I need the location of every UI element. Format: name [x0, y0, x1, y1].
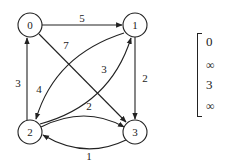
svg-text:5: 5 — [79, 12, 85, 24]
edge-3-2: 1 — [43, 135, 126, 162]
svg-text:3: 3 — [132, 126, 138, 138]
edge-0-1: 5 — [42, 12, 122, 25]
matrix-cell-r1c0: ∞ — [206, 58, 215, 72]
svg-text:2: 2 — [86, 100, 92, 112]
matrix-cell-r2c0: 3 — [206, 78, 213, 92]
svg-text:2: 2 — [142, 72, 148, 84]
node-0: 0 — [18, 13, 42, 37]
edge-2-0: 3 — [15, 38, 27, 120]
matrix-left-bracket — [197, 33, 202, 117]
svg-text:7: 7 — [63, 39, 69, 51]
svg-text:3: 3 — [15, 77, 21, 89]
adjacency-matrix: 0 ∞ 3 ∞ — [197, 33, 231, 117]
edge-2-3: 2 — [41, 100, 124, 127]
node-3: 3 — [123, 120, 147, 144]
node-2: 2 — [18, 120, 42, 144]
svg-text:0: 0 — [27, 19, 33, 31]
svg-text:4: 4 — [36, 83, 42, 95]
matrix-cell-r3c0: ∞ — [206, 99, 215, 113]
svg-text:3: 3 — [101, 63, 107, 75]
edge-1-3: 2 — [135, 37, 148, 119]
matrix-cell-r0c0: 0 — [206, 35, 213, 49]
svg-text:1: 1 — [132, 19, 138, 31]
edge-0-3: 7 — [39, 34, 126, 122]
svg-text:2: 2 — [27, 126, 33, 138]
svg-text:1: 1 — [86, 150, 92, 162]
node-1: 1 — [123, 13, 147, 37]
